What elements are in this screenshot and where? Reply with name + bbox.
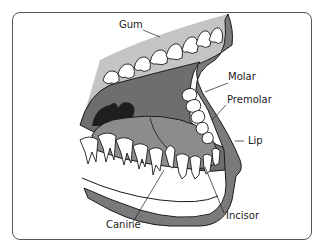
- label-lip: Lip: [248, 136, 263, 146]
- label-gum: Gum: [119, 20, 143, 30]
- label-canine: Canine: [106, 220, 141, 230]
- label-molar: Molar: [228, 72, 256, 82]
- label-premolar: Premolar: [227, 95, 272, 105]
- mouth-illustration: [0, 0, 324, 251]
- label-incisor: Incisor: [226, 211, 259, 221]
